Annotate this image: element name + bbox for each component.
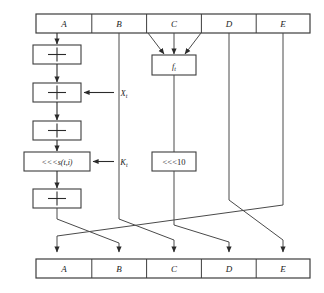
input-label-kt: Kt [119,157,128,168]
wire-d-to-f [185,33,201,54]
top-register-label-b: B [116,19,122,29]
permutation-wiring [57,196,283,252]
bottom-register-label-d: D [225,264,233,274]
wire-out-b-to-bottom-c [119,219,174,240]
rotate-variable-label: <<<s(t,i) [41,158,72,167]
wire-out-a-to-bottom-b [57,208,119,243]
bottom-register-row: A B C D E [36,259,310,278]
bottom-register-label-b: B [116,264,122,274]
a-column-chain: Xt <<<s(t,i) Kt [24,33,128,208]
f-function-group: ft [148,33,201,152]
bottom-register-label-a: A [60,264,67,274]
top-register-label-a: A [60,19,67,29]
top-register-row: A B C D E [36,14,310,33]
wire-out-d-to-bottom-e [229,196,283,240]
bottom-register-label-e: E [279,264,286,274]
bottom-register-label-c: C [171,264,178,274]
wire-out-e-to-bottom-a [57,196,283,236]
ripemd-round-diagram: A B C D E Xt <<<s(t,i) [0,0,324,293]
rotate-fixed-group: <<<10 [152,152,196,225]
top-register-label-d: D [225,19,233,29]
top-register-label-c: C [171,19,178,29]
rotate-fixed-label: <<<10 [163,157,186,167]
wire-out-c-to-bottom-d [174,225,229,242]
top-register-label-e: E [279,19,286,29]
wire-b-to-f [148,33,164,54]
input-label-xt: Xt [120,88,128,99]
